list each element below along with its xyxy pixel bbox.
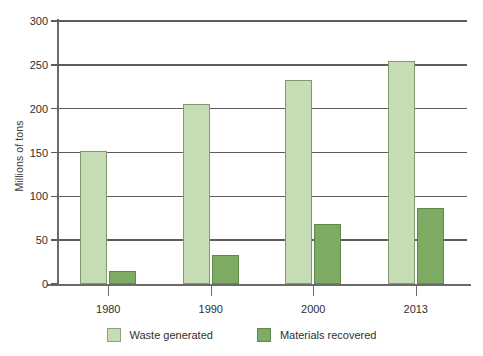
x-tick-mark — [211, 284, 212, 296]
bar-1980-materials-recovered — [109, 271, 136, 284]
legend-label: Materials recovered — [280, 329, 377, 341]
gridline — [57, 20, 467, 21]
y-tick-label: 150 — [30, 147, 48, 159]
x-tick-label: 1990 — [199, 303, 223, 315]
bar-1980-waste-generated — [80, 151, 107, 284]
y-tick-label: 200 — [30, 103, 48, 115]
y-tick-mark — [51, 108, 57, 109]
bar-2013-waste-generated — [388, 61, 415, 284]
bar-1990-waste-generated — [183, 104, 210, 284]
y-tick-label: 0 — [42, 278, 48, 290]
y-tick-mark — [51, 64, 57, 65]
y-tick-label: 50 — [36, 234, 48, 246]
legend-item-waste-generated: Waste generated — [107, 328, 213, 342]
y-tick-mark — [51, 283, 57, 284]
bar-2000-waste-generated — [285, 80, 312, 284]
x-tick-mark — [108, 284, 109, 296]
bar-1990-materials-recovered — [212, 255, 239, 284]
chart-legend: Waste generated Materials recovered — [0, 328, 483, 342]
y-tick-mark — [51, 239, 57, 240]
legend-label: Waste generated — [130, 329, 213, 341]
bar-chart: Millions of tons 05010015020025030019801… — [0, 0, 483, 356]
x-tick-label: 2013 — [404, 303, 428, 315]
x-tick-mark — [313, 284, 314, 296]
y-tick-mark — [51, 20, 57, 21]
y-tick-label: 250 — [30, 59, 48, 71]
legend-swatch-icon — [257, 328, 271, 342]
y-axis-title: Millions of tons — [13, 101, 25, 211]
bar-2000-materials-recovered — [314, 224, 341, 284]
legend-swatch-icon — [107, 328, 121, 342]
y-tick-mark — [51, 196, 57, 197]
plot-area: 0501001502002503001980199020002013 — [57, 21, 467, 284]
y-tick-mark — [51, 152, 57, 153]
y-tick-label: 300 — [30, 15, 48, 27]
x-tick-mark — [416, 284, 417, 296]
x-tick-label: 1980 — [96, 303, 120, 315]
legend-item-materials-recovered: Materials recovered — [257, 328, 377, 342]
bar-2013-materials-recovered — [417, 208, 444, 284]
y-tick-label: 100 — [30, 190, 48, 202]
x-tick-label: 2000 — [301, 303, 325, 315]
